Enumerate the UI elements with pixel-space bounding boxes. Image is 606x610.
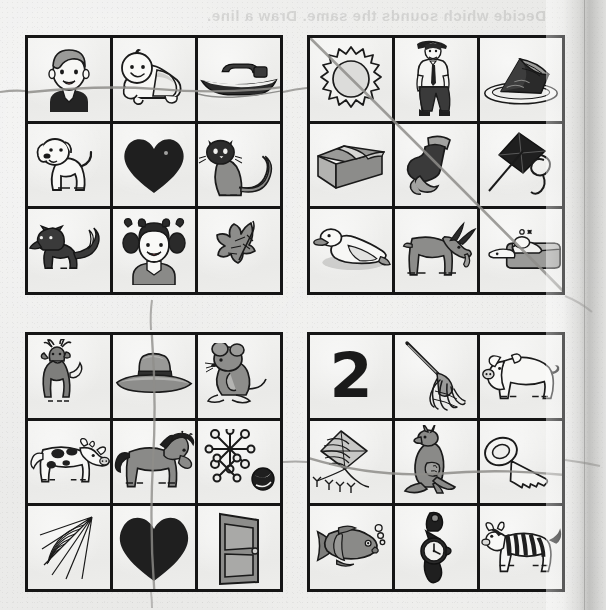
cell-deer[interactable] bbox=[28, 335, 110, 418]
cell-kite-b[interactable] bbox=[310, 421, 392, 504]
cell-sun[interactable] bbox=[310, 38, 392, 121]
bottom-right-grid: 2 bbox=[307, 332, 565, 592]
cell-heart-1[interactable] bbox=[113, 124, 195, 207]
scan-edge-shadow bbox=[546, 0, 606, 610]
cell-hat[interactable] bbox=[113, 335, 195, 418]
cell-leaf[interactable] bbox=[198, 209, 280, 292]
cell-watch[interactable] bbox=[395, 506, 477, 589]
cell-boy[interactable] bbox=[28, 38, 110, 121]
number-two-glyph: 2 bbox=[329, 345, 372, 407]
cell-duck[interactable] bbox=[310, 209, 392, 292]
cell-sock[interactable] bbox=[395, 124, 477, 207]
top-right-grid bbox=[307, 35, 565, 295]
cell-heart-2[interactable] bbox=[113, 506, 195, 589]
cell-cow[interactable] bbox=[28, 421, 110, 504]
cell-box[interactable] bbox=[310, 124, 392, 207]
cell-kangaroo[interactable] bbox=[395, 421, 477, 504]
cell-boat[interactable] bbox=[198, 38, 280, 121]
cell-goat[interactable] bbox=[395, 209, 477, 292]
bottom-left-grid bbox=[25, 332, 283, 592]
cell-fox[interactable] bbox=[28, 209, 110, 292]
cell-man[interactable] bbox=[395, 38, 477, 121]
bleed-through-heading: Decide which sounds the same. Draw a lin… bbox=[26, 7, 546, 24]
cell-cat[interactable] bbox=[198, 124, 280, 207]
cell-horse[interactable] bbox=[113, 421, 195, 504]
cell-jacks[interactable] bbox=[198, 421, 280, 504]
cell-spider-web[interactable] bbox=[28, 506, 110, 589]
cell-baby[interactable] bbox=[113, 38, 195, 121]
cell-mop[interactable] bbox=[395, 335, 477, 418]
cell-door[interactable] bbox=[198, 506, 280, 589]
top-left-grid bbox=[25, 35, 283, 295]
cell-girl[interactable] bbox=[113, 209, 195, 292]
page-edge-line bbox=[584, 0, 586, 610]
cell-fish[interactable] bbox=[310, 506, 392, 589]
cell-mouse[interactable] bbox=[198, 335, 280, 418]
cell-number-two[interactable]: 2 bbox=[310, 335, 392, 418]
cell-dog[interactable] bbox=[28, 124, 110, 207]
